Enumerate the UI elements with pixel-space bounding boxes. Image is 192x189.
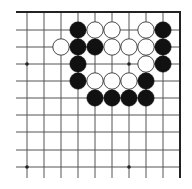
black-stone <box>155 22 171 38</box>
white-stone <box>104 22 120 38</box>
star-point-icon <box>25 165 29 169</box>
white-stone <box>138 22 154 38</box>
star-point-icon <box>25 62 29 66</box>
black-stone <box>87 39 103 55</box>
white-stone <box>121 39 137 55</box>
star-point-icon <box>127 165 131 169</box>
white-stone <box>104 39 120 55</box>
black-stone <box>70 56 86 72</box>
white-stone <box>87 73 103 89</box>
white-stone <box>138 39 154 55</box>
go-board <box>0 0 192 189</box>
black-stone <box>70 39 86 55</box>
black-stone <box>70 22 86 38</box>
black-stone <box>87 90 103 106</box>
black-stone <box>104 90 120 106</box>
black-stone <box>70 73 86 89</box>
black-stone <box>155 39 171 55</box>
black-stone <box>138 90 154 106</box>
white-stone <box>138 56 154 72</box>
white-stone <box>121 73 137 89</box>
white-stone <box>104 73 120 89</box>
black-stone <box>155 56 171 72</box>
star-point-icon <box>127 62 131 66</box>
black-stone <box>121 90 137 106</box>
white-stone <box>87 22 103 38</box>
white-stone <box>53 39 69 55</box>
go-board-canvas <box>0 0 192 189</box>
black-stone <box>138 73 154 89</box>
